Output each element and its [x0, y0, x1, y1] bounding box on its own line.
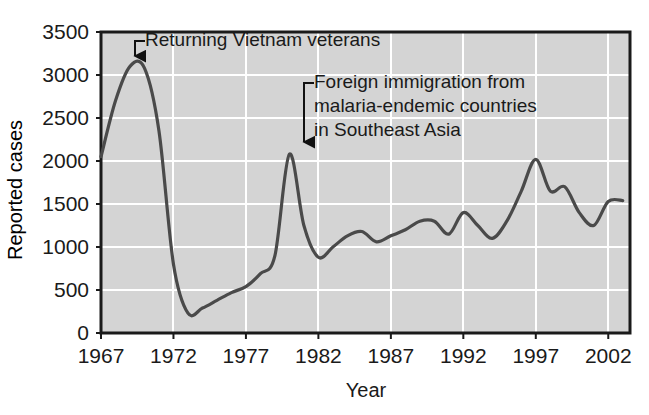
x-axis-tick-labels: 19671972197719821987199219972002	[78, 344, 632, 367]
y-tick-label: 1500	[42, 192, 89, 215]
y-tick-label: 3500	[42, 20, 89, 43]
annotation-text-line: malaria-endemic countries	[314, 95, 537, 116]
annotation-text-line: Returning Vietnam veterans	[145, 29, 380, 50]
figure-container: 0500100015002000250030003500 19671972197…	[0, 0, 649, 415]
x-tick-label: 1977	[223, 344, 270, 367]
annotation-text-line: in Southeast Asia	[314, 119, 461, 140]
x-tick-label: 1982	[295, 344, 342, 367]
y-axis-tick-labels: 0500100015002000250030003500	[42, 20, 89, 344]
y-tick-label: 0	[77, 321, 89, 344]
malaria-reported-cases-chart: 0500100015002000250030003500 19671972197…	[0, 0, 649, 415]
y-tick-label: 2500	[42, 106, 89, 129]
x-tick-label: 1987	[368, 344, 415, 367]
x-tick-label: 2002	[585, 344, 632, 367]
x-tick-label: 1967	[78, 344, 125, 367]
x-tick-label: 1992	[440, 344, 487, 367]
y-tick-label: 500	[54, 278, 89, 301]
y-axis-title: Reported cases	[4, 120, 26, 260]
annotation-text-line: Foreign immigration from	[314, 71, 525, 92]
x-tick-label: 1972	[150, 344, 197, 367]
x-tick-label: 1997	[512, 344, 559, 367]
y-tick-label: 1000	[42, 235, 89, 258]
x-axis-title: Year	[346, 379, 387, 401]
y-tick-label: 3000	[42, 63, 89, 86]
y-tick-label: 2000	[42, 149, 89, 172]
